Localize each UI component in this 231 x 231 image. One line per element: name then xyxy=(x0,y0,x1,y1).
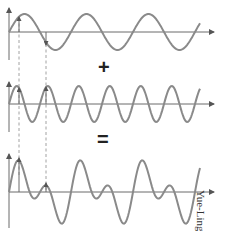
panel-wave-2 xyxy=(9,82,214,132)
plus-sign: + xyxy=(98,56,110,79)
author-credit: Yue-Ling Wong xyxy=(195,190,207,231)
panel-wave-1 xyxy=(9,8,214,60)
panel-sum xyxy=(9,154,214,228)
equals-sign: = xyxy=(97,128,109,151)
